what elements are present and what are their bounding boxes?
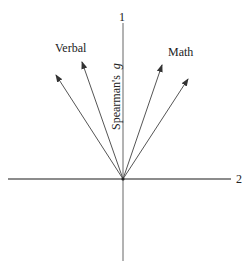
factor-diagram: 1 2 Spearman's g Verbal Math: [0, 0, 248, 269]
vertical-axis-name: Spearman's g: [109, 63, 123, 130]
math-vector-1: [123, 65, 162, 179]
math-vector-2: [123, 79, 188, 179]
diagram-svg: 1 2 Spearman's g Verbal Math: [0, 0, 248, 269]
group-label-verbal: Verbal: [55, 41, 87, 55]
axis-name-italic-g: g: [109, 63, 123, 69]
group-label-math: Math: [168, 45, 193, 59]
origin-point: [121, 177, 124, 180]
horizontal-axis-end-label: 2: [236, 172, 242, 186]
axis-name-text: Spearman's: [109, 75, 123, 130]
vertical-axis-top-label: 1: [119, 10, 125, 24]
